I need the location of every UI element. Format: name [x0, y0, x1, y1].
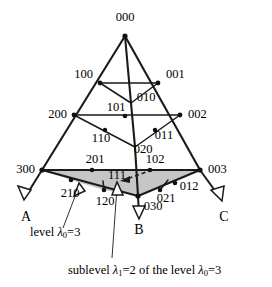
- annotation-sublevel-value: =3: [208, 263, 221, 277]
- node-label-120: 120: [96, 194, 115, 208]
- node-dot-101: [123, 114, 128, 119]
- node-label-003: 003: [208, 162, 227, 176]
- node-dot-001: [156, 81, 161, 86]
- axis-label-b: B: [134, 222, 143, 237]
- node-dot-300: [39, 167, 44, 172]
- annotation-level: level λ0=3: [30, 225, 80, 240]
- node-label-300: 300: [16, 162, 35, 176]
- annotation-sublevel: sublevel λ1=2 of the level λ0=3: [68, 263, 221, 278]
- node-dot-100: [98, 81, 103, 86]
- arrowhead-a-icon: [18, 186, 31, 200]
- simplex-lattice-figure: 000 100 001 010 101 200 002 110 011 020 …: [0, 0, 272, 287]
- node-dot-201: [90, 168, 95, 173]
- node-label-001: 001: [166, 67, 185, 81]
- node-label-012: 012: [180, 179, 199, 193]
- node-label-010: 010: [137, 90, 156, 104]
- node-label-100: 100: [74, 67, 93, 81]
- node-label-110: 110: [92, 131, 110, 145]
- node-dot-003: [197, 167, 202, 172]
- node-dot-012: [173, 181, 178, 186]
- node-dot-200: [72, 113, 77, 118]
- node-label-011: 011: [155, 128, 173, 142]
- annotation-sublevel-mid: =2 of the level: [122, 263, 198, 277]
- node-label-101: 101: [107, 100, 126, 114]
- node-label-030: 030: [144, 199, 163, 213]
- figure-canvas: 000 100 001 010 101 200 002 110 011 020 …: [0, 0, 272, 287]
- node-label-000: 000: [116, 10, 135, 24]
- node-dot-002: [178, 113, 183, 118]
- node-dot-000: [122, 33, 127, 38]
- svg-text:sublevel λ1=2 of the level λ0=: sublevel λ1=2 of the level λ0=3: [68, 263, 221, 278]
- node-dot-210: [69, 178, 74, 183]
- node-label-102: 102: [146, 152, 165, 166]
- node-dot-120: [102, 188, 107, 193]
- node-label-002: 002: [188, 107, 207, 121]
- node-label-210: 210: [61, 186, 80, 200]
- annotation-level-word: level: [30, 225, 57, 239]
- svg-text:level λ0=3: level λ0=3: [30, 225, 80, 240]
- node-label-200: 200: [48, 107, 67, 121]
- annotation-sublevel-word: sublevel: [68, 263, 113, 277]
- axis-label-c: C: [219, 209, 228, 224]
- node-label-201: 201: [86, 152, 105, 166]
- axis-label-a: A: [21, 209, 32, 224]
- annotation-level-value: =3: [67, 225, 80, 239]
- node-dot-102: [148, 168, 153, 173]
- node-label-111: 111: [108, 168, 126, 182]
- node-dot-030: [135, 193, 140, 198]
